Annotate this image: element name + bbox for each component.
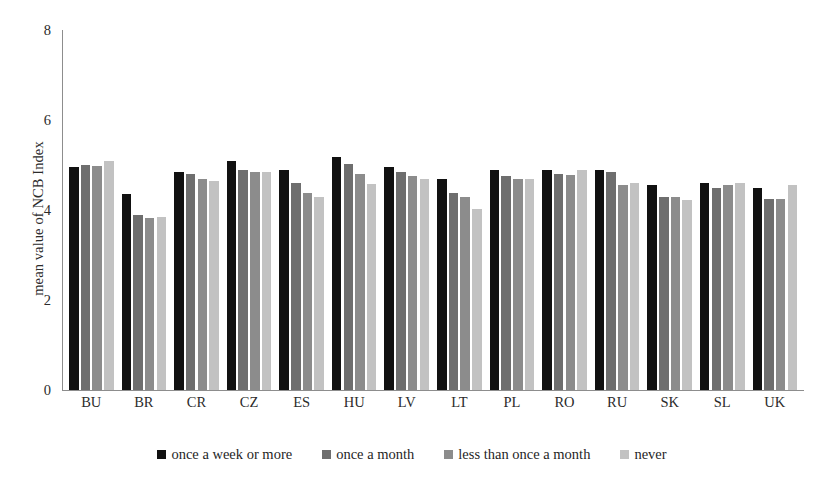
bar [81,165,91,390]
bar [133,215,143,391]
x-tick-labels: BUBRCRCZESHULVLTPLRORUSKSLUK [65,394,801,411]
bar [554,174,564,390]
bar-group [591,30,644,390]
bar [420,179,430,391]
bar [525,179,535,391]
x-tick-label-sk: SK [643,394,696,411]
bar [513,179,523,391]
legend-swatch-icon [620,450,629,459]
x-tick-label-ru: RU [591,394,644,411]
bar [595,170,605,390]
clipped-title-text [0,0,824,3]
bar-group [433,30,486,390]
bar [408,176,418,390]
plot-area: 02468 [62,30,804,390]
bar [682,200,692,390]
bar [209,181,219,390]
bar [174,172,184,390]
bar [250,172,260,390]
legend-swatch-icon [322,450,331,459]
bar-group [696,30,749,390]
legend-item[interactable]: once a month [322,446,414,463]
bar-group [223,30,276,390]
x-tick-label-es: ES [275,394,328,411]
bar [671,197,681,390]
bar [659,197,669,391]
legend-swatch-icon [157,450,166,459]
bar [788,185,798,390]
bar [198,179,208,391]
bar [700,183,710,390]
bar [577,170,587,391]
legend-item[interactable]: less than once a month [444,446,590,463]
x-axis-line [62,390,804,391]
bar [437,179,447,391]
x-tick-label-bu: BU [65,394,118,411]
bar-groups [65,30,801,390]
legend-label: once a month [336,446,414,463]
x-tick-label-hu: HU [328,394,381,411]
bar [344,164,354,390]
y-tick-label: 8 [44,22,51,39]
x-tick-label-cr: CR [170,394,223,411]
bar-chart: mean value of NCB Index 02468 BUBRCRCZES… [0,0,824,491]
legend-label: once a week or more [171,446,292,463]
bar [122,194,132,390]
bar [723,185,733,390]
bar [396,172,406,390]
bar [279,170,289,391]
bar [367,184,377,390]
x-tick-label-pl: PL [486,394,539,411]
bar [449,193,459,390]
bar [566,175,576,390]
bar [472,209,482,390]
bar-group [486,30,539,390]
bar [384,167,394,390]
y-tick-label: 4 [44,202,51,219]
bar [92,166,102,390]
bar [104,161,114,391]
bar-group [65,30,118,390]
legend-swatch-icon [444,450,453,459]
legend-label: less than once a month [458,446,590,463]
x-tick-label-br: BR [118,394,171,411]
bar [764,199,774,390]
bar [186,174,196,390]
bar-group [380,30,433,390]
bar [501,176,511,390]
bar [262,172,272,390]
x-tick-label-uk: UK [749,394,802,411]
bar-group [275,30,328,390]
bar-group [749,30,802,390]
x-tick-label-cz: CZ [223,394,276,411]
x-tick-label-ro: RO [538,394,591,411]
bar [69,167,79,390]
x-tick-label-lt: LT [433,394,486,411]
bar [776,199,786,390]
bar-group [170,30,223,390]
y-tick-label: 0 [44,382,51,399]
bar [735,183,745,390]
x-tick-label-lv: LV [380,394,433,411]
bar [332,157,342,390]
bar [303,193,313,390]
bar [227,161,237,390]
bar [606,172,616,390]
bar [490,170,500,390]
legend-label: never [634,446,666,463]
legend-item[interactable]: never [620,446,666,463]
legend-item[interactable]: once a week or more [157,446,292,463]
bar [291,183,301,390]
bar [314,197,324,391]
bar [238,170,248,391]
bar [630,183,640,390]
bar-group [643,30,696,390]
bar [460,197,470,390]
chart-legend: once a week or moreonce a monthless than… [0,446,824,463]
y-tick-label: 2 [44,292,51,309]
bar [157,217,167,390]
bar [355,174,365,390]
y-tick-label: 6 [44,112,51,129]
bar-group [328,30,381,390]
bar [145,218,155,390]
